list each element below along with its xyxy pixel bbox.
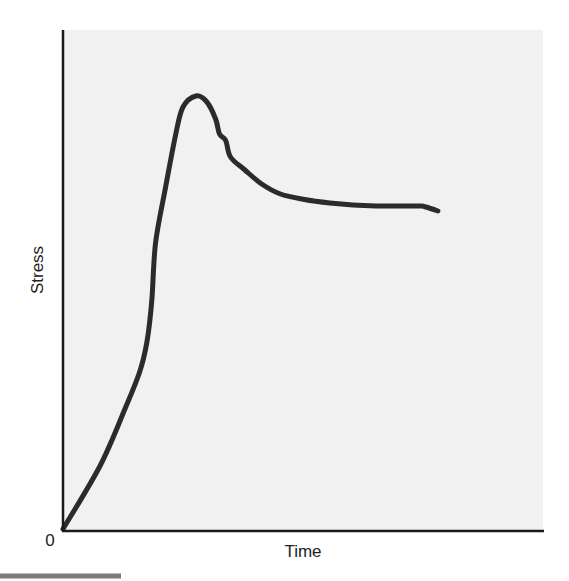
origin-label: 0 [45,531,54,550]
stress-time-chart: 0 Time Stress [0,0,569,581]
x-axis-label: Time [284,542,321,561]
y-axis-label: Stress [28,246,47,294]
plot-area [63,30,543,530]
